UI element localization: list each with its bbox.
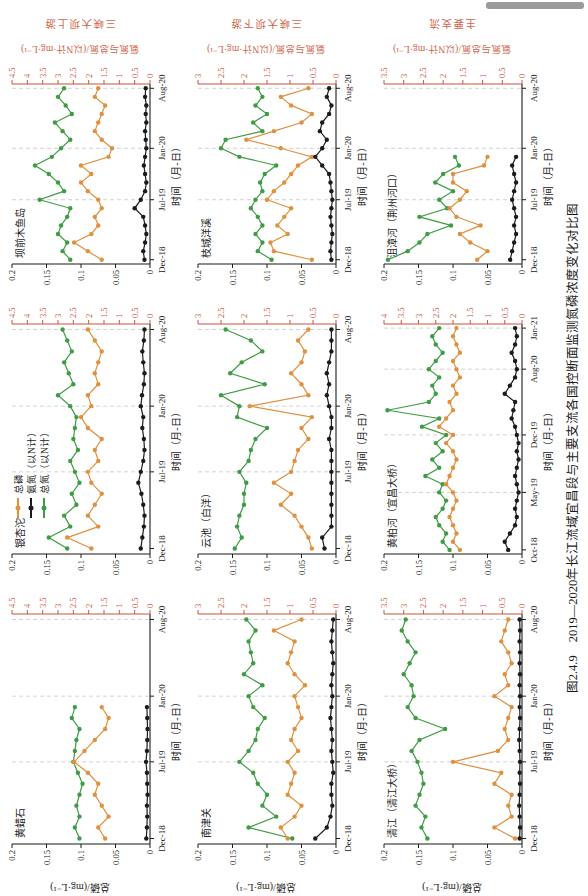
nh3n-point <box>329 683 333 687</box>
nh3n-point <box>329 470 333 474</box>
tp-point <box>296 338 300 342</box>
nh3n-point <box>329 639 333 643</box>
tp-point <box>103 727 107 731</box>
svg-text:3.5: 3.5 <box>38 67 48 78</box>
tn-point <box>386 258 390 262</box>
tn-point <box>407 661 411 665</box>
nh3n-point <box>140 426 144 430</box>
tp-point <box>485 249 489 253</box>
svg-text:0.2: 0.2 <box>7 850 17 861</box>
svg-text:0.5: 0.5 <box>130 307 140 318</box>
tp-point <box>299 360 303 364</box>
nh3n-point <box>506 548 510 552</box>
tn-point <box>70 112 74 116</box>
legend-swatch-tn <box>43 498 45 518</box>
tp-point <box>96 782 100 786</box>
tn-point <box>237 760 241 764</box>
plot-canvas-nanjinguan: 00.050.10.150.200.511.522.53Dec-18Jul-19… <box>188 590 374 880</box>
nh3n-point <box>513 523 517 527</box>
tn-point <box>251 705 255 709</box>
nh3n-point <box>517 727 521 731</box>
svg-text:0: 0 <box>331 560 341 564</box>
tp-point <box>100 492 104 496</box>
tn-point <box>237 404 241 408</box>
tp-point <box>499 771 503 775</box>
nh3n-point <box>330 650 334 654</box>
tp-point <box>292 814 296 818</box>
svg-text:Jan-20: Jan-20 <box>343 394 353 418</box>
svg-text:2.5: 2.5 <box>68 597 78 608</box>
nh3n-point <box>329 448 333 452</box>
tp-point <box>93 371 97 375</box>
nh3n-point <box>145 825 149 829</box>
tn-point <box>427 400 431 404</box>
tp-point <box>103 836 107 840</box>
tn-point <box>65 215 69 219</box>
tp-point <box>458 232 462 236</box>
x-axis-label: 时间（月-日） <box>170 142 182 205</box>
subplot-zhicheng-yangxi: 00.050.10.150.200.511.522.53Dec-18Jul-19… <box>188 60 374 300</box>
x-axis-label: 时间（月-日） <box>356 697 368 760</box>
svg-text:0.1: 0.1 <box>262 560 272 571</box>
svg-text:0.1: 0.1 <box>448 560 458 571</box>
nh3n-point <box>329 327 333 331</box>
tp-point <box>279 95 283 99</box>
subplot-nanjinguan: 00.050.10.150.200.511.522.53Dec-18Jul-19… <box>188 590 374 880</box>
tn-point <box>437 523 441 527</box>
svg-text:0.15: 0.15 <box>42 560 52 575</box>
nh3n-point <box>329 240 333 244</box>
tn-point <box>65 546 69 550</box>
tp-point <box>451 180 455 184</box>
nh3n-point <box>328 215 332 219</box>
nh3n-point <box>518 760 522 764</box>
group-label-upstream: 三峡大坝上游 <box>44 17 116 32</box>
tp-point <box>96 86 100 90</box>
svg-text:2: 2 <box>84 604 94 608</box>
nh3n-point <box>517 814 521 818</box>
svg-text:Jul-19: Jul-19 <box>343 750 353 773</box>
svg-text:2.5: 2.5 <box>216 67 226 78</box>
tp-point <box>289 206 293 210</box>
tn-point <box>68 138 72 142</box>
tn-point <box>405 249 409 253</box>
svg-text:1: 1 <box>285 74 295 78</box>
left-axis-label-row2: 总磷/(mg·L⁻¹) <box>236 881 296 896</box>
nh3n-point <box>517 771 521 775</box>
tn-point <box>56 95 60 99</box>
svg-text:1.5: 1.5 <box>262 597 272 608</box>
svg-text:0: 0 <box>517 850 527 854</box>
svg-text:2: 2 <box>84 314 94 318</box>
tn-point <box>237 470 241 474</box>
svg-text:0.15: 0.15 <box>228 270 238 285</box>
tp-point <box>454 215 458 219</box>
tp-point <box>72 760 76 764</box>
tn-point <box>423 814 427 818</box>
nh3n-point <box>513 474 517 478</box>
svg-text:0: 0 <box>331 74 341 78</box>
svg-text:3: 3 <box>193 74 203 78</box>
svg-text:4: 4 <box>22 73 32 78</box>
tn-point <box>434 441 438 445</box>
subplot-huangbaihe-yichang: 00.050.10.150.200.511.522.533.54Oct-18Ma… <box>374 300 560 590</box>
tn-point <box>440 507 444 511</box>
svg-text:0.15: 0.15 <box>414 850 424 865</box>
tp-point <box>79 415 83 419</box>
tn-point <box>73 705 77 709</box>
svg-text:0: 0 <box>145 314 155 318</box>
group-label-downstream: 三峡大坝下游 <box>230 17 302 32</box>
plot-canvas-zhicheng-yangxi: 00.050.10.150.200.511.522.53Dec-18Jul-19… <box>188 60 374 300</box>
nh3n-point <box>140 535 144 539</box>
tp-point <box>292 513 296 517</box>
svg-text:2: 2 <box>438 74 448 78</box>
station-label: 黄柏河（宜昌大桥） <box>386 458 398 548</box>
tn-point <box>249 206 253 210</box>
svg-text:0: 0 <box>517 314 527 318</box>
tn-point <box>47 535 51 539</box>
svg-text:4: 4 <box>379 313 389 318</box>
plot-canvas-qingjiang-bridge: 00.050.10.150.200.511.522.533.5Dec-18Jul… <box>374 590 560 880</box>
svg-text:2: 2 <box>84 74 94 78</box>
tn-point <box>242 503 246 507</box>
nh3n-point <box>515 449 519 453</box>
nh3n-point <box>327 404 331 408</box>
tp-point <box>451 408 455 412</box>
